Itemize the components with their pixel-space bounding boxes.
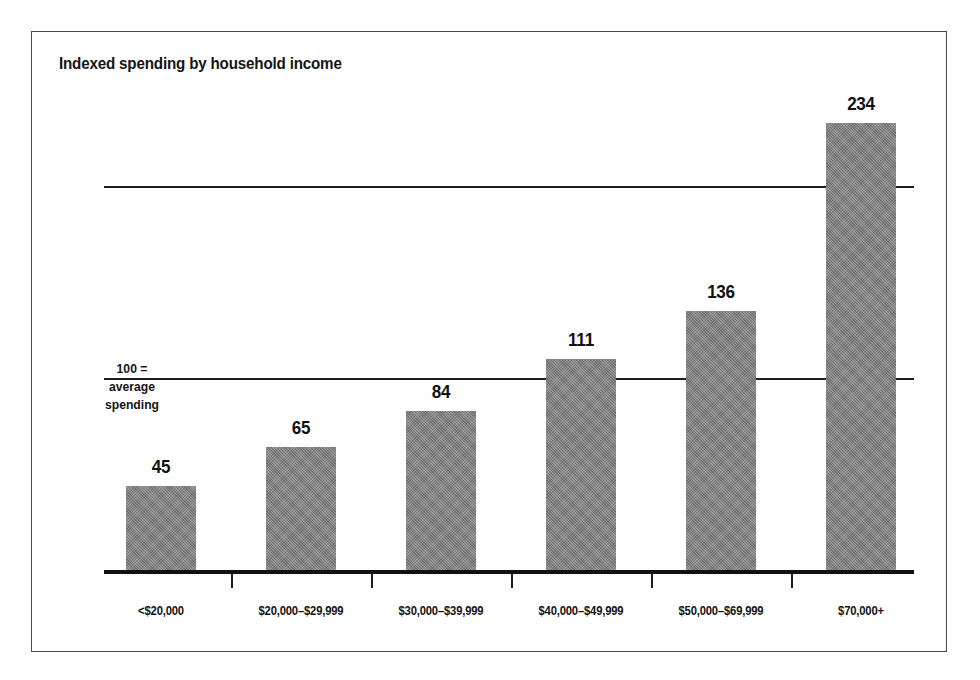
bar-value-2: 84	[369, 381, 513, 403]
bar-value-0: 45	[89, 456, 233, 478]
bar-value-3: 111	[509, 329, 653, 351]
bar-2[interactable]	[406, 411, 476, 572]
chart-figure: Indexed spending by household income 45 …	[31, 31, 947, 652]
chart-title: Indexed spending by household income	[59, 54, 342, 73]
category-label-5: $70,000+	[776, 604, 947, 618]
axis-tick-1	[231, 574, 233, 588]
bar-4[interactable]	[686, 311, 756, 572]
plot-area: 45 65 84 111 136 234 <$20,000 $20,000–$2…	[104, 92, 914, 572]
baseline-annotation-line1: 100 =	[78, 360, 186, 378]
baseline-annotation-line3: spending	[78, 396, 186, 414]
bar-1[interactable]	[266, 447, 336, 572]
bar-slot-5[interactable]	[826, 123, 896, 572]
bar-value-1: 65	[229, 417, 373, 439]
axis-tick-2	[371, 574, 373, 588]
bar-slot-1[interactable]	[266, 447, 336, 572]
gridline-100	[104, 378, 914, 380]
bar-slot-0[interactable]	[126, 486, 196, 572]
axis-tick-5	[791, 574, 793, 588]
gridline-200	[104, 186, 914, 188]
bar-slot-3[interactable]	[546, 359, 616, 572]
bar-value-4: 136	[649, 281, 793, 303]
baseline-annotation-line2: average	[78, 378, 186, 396]
baseline-annotation: 100 = average spending	[78, 360, 186, 414]
bar-0[interactable]	[126, 486, 196, 572]
bar-value-5: 234	[789, 93, 933, 115]
bar-5[interactable]	[826, 123, 896, 572]
bar-slot-4[interactable]	[686, 311, 756, 572]
axis-tick-4	[651, 574, 653, 588]
axis-tick-3	[511, 574, 513, 588]
bar-3[interactable]	[546, 359, 616, 572]
bar-slot-2[interactable]	[406, 411, 476, 572]
